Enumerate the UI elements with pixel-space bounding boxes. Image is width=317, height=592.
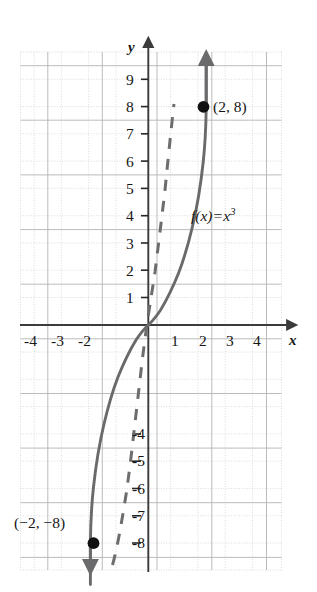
function-label-arg: (x) — [195, 207, 212, 224]
y-tick-6: 6 — [126, 154, 134, 170]
y-axis-ticks — [132, 79, 148, 543]
x-tick-neg3: -3 — [51, 333, 64, 349]
y-tick-neg7: -7 — [132, 508, 145, 524]
point-marker-neg2-neg8 — [88, 537, 100, 549]
y-tick-8: 8 — [126, 99, 134, 115]
y-tick-7: 7 — [126, 126, 134, 142]
x-tick-3: 3 — [226, 333, 234, 349]
point-label-2-8: (2, 8) — [213, 99, 247, 115]
function-label-exponent: 3 — [230, 206, 235, 217]
x-tick-1: 1 — [171, 333, 179, 349]
x-tick-4: 4 — [253, 333, 261, 349]
function-label-equals: = — [213, 207, 224, 224]
y-tick-neg8: -8 — [132, 535, 145, 551]
y-tick-4: 4 — [126, 208, 134, 224]
y-axis-label: y — [128, 40, 135, 55]
cubic-function-figure: y x 1 2 3 4 5 6 7 8 9 -4 -5 -6 -7 -8 -4 … — [0, 0, 317, 592]
grid-minor — [21, 52, 282, 570]
y-tick-neg4: -4 — [132, 426, 145, 442]
y-tick-neg6: -6 — [132, 481, 145, 497]
point-marker-2-8 — [198, 101, 210, 113]
y-tick-5: 5 — [126, 181, 134, 197]
point-label-neg2-neg8: (−2, −8) — [14, 515, 65, 531]
grid-major — [21, 52, 282, 570]
x-axis-label: x — [289, 333, 297, 348]
x-tick-neg4: -4 — [24, 333, 37, 349]
y-tick-neg5: -5 — [132, 453, 145, 469]
y-tick-3: 3 — [126, 236, 134, 252]
y-tick-9: 9 — [126, 72, 134, 88]
y-tick-1: 1 — [126, 290, 134, 306]
plot-canvas — [0, 0, 317, 592]
x-tick-2: 2 — [199, 333, 207, 349]
y-tick-2: 2 — [126, 263, 134, 279]
function-label: f(x)=x3 — [191, 207, 235, 224]
x-tick-neg2: -2 — [78, 333, 91, 349]
